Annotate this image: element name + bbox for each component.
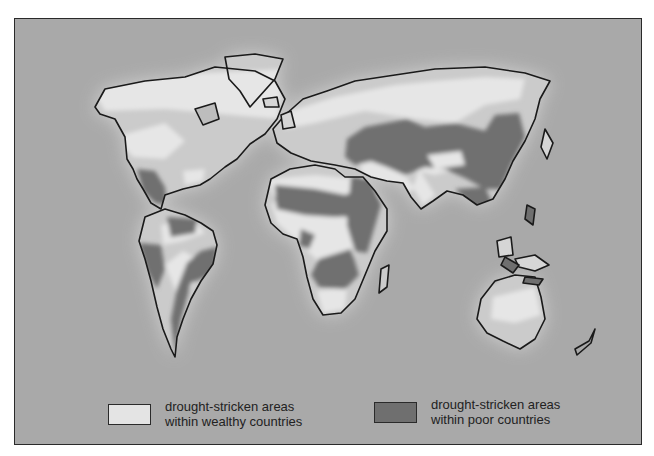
java [523, 277, 543, 285]
philippines [525, 205, 535, 225]
legend-swatch-wealthy [108, 404, 151, 425]
legend: drought-stricken areas within wealthy co… [15, 395, 642, 445]
madagascar [379, 265, 389, 293]
world-map [15, 19, 642, 445]
legend-item-poor: drought-stricken areas within poor count… [374, 397, 560, 427]
legend-swatch-poor [374, 402, 417, 423]
borneo [497, 237, 513, 257]
japan [541, 129, 553, 159]
map-frame: drought-stricken areas within wealthy co… [14, 18, 642, 445]
legend-label-wealthy: drought-stricken areas within wealthy co… [165, 399, 302, 429]
new-guinea [515, 255, 549, 271]
new-zealand [575, 329, 595, 355]
legend-label-poor: drought-stricken areas within poor count… [431, 397, 560, 427]
legend-item-wealthy: drought-stricken areas within wealthy co… [108, 399, 302, 429]
iceland [263, 97, 279, 107]
